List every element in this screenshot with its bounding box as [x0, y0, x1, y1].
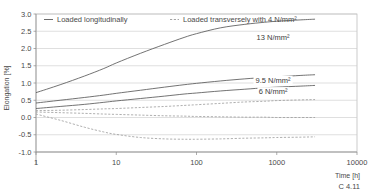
series-curve [36, 112, 315, 118]
x-axis-tick-labels: 110100100010000 [34, 158, 368, 167]
series-curve [36, 114, 315, 139]
y-tick-label: -0.5 [19, 130, 32, 139]
x-tick-label: 1000 [268, 158, 285, 167]
series-annotation-label: 9.5 N/mm² [256, 76, 292, 85]
y-tick-label: -1.0 [19, 148, 32, 157]
series-annotation-label: 13 N/mm² [257, 33, 290, 42]
legend-label: Loaded longitudinally [57, 15, 128, 24]
elongation-vs-time-chart: 3.02.52.01.51.00.50.0-0.5-1.0 1101001000… [0, 0, 372, 193]
x-tick-label: 100 [190, 158, 203, 167]
series-annotation-label: 6 N/mm² [259, 87, 288, 96]
x-tick-label: 1 [34, 158, 38, 167]
x-tick-label: 10000 [347, 158, 368, 167]
x-axis-title: Time [h] [335, 172, 360, 180]
figure-caption: C 4.11 [338, 182, 360, 191]
y-tick-label: 0.0 [21, 113, 31, 122]
y-tick-label: 1.5 [21, 61, 31, 70]
series-annotations: 13 N/mm²9.5 N/mm²6 N/mm² [254, 33, 293, 97]
y-tick-label: 2.0 [21, 44, 31, 53]
chart-container: 3.02.52.01.51.00.50.0-0.5-1.0 1101001000… [0, 0, 372, 193]
y-tick-label: 0.5 [21, 96, 31, 105]
x-tick-label: 10 [112, 158, 120, 167]
y-axis-tick-labels: 3.02.52.01.51.00.50.0-0.5-1.0 [19, 10, 32, 157]
y-axis-title: Elongation [%] [3, 65, 11, 110]
chart-legend: Loaded longitudinallyLoaded transversely… [44, 15, 297, 24]
x-axis-ticks [36, 152, 357, 155]
y-tick-label: 2.5 [21, 27, 31, 36]
y-tick-label: 3.0 [21, 10, 31, 19]
y-axis-ticks [34, 14, 37, 152]
legend-label: Loaded transversely with 4 N/mm² [183, 15, 297, 24]
y-tick-label: 1.0 [21, 79, 31, 88]
